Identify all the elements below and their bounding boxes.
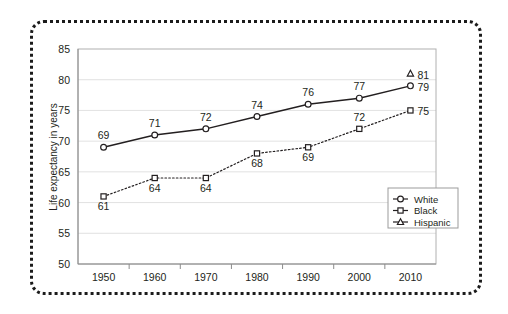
- legend-marker-black: [398, 208, 403, 213]
- line-chart: 5055606570758085 19501960197019801990200…: [0, 0, 508, 314]
- data-label-black-1960: 64: [149, 182, 161, 194]
- data-label-black-1970: 64: [200, 182, 212, 194]
- y-tick-label: 75: [58, 104, 70, 116]
- x-tick-label: 1950: [92, 271, 116, 283]
- y-tick-label: 80: [58, 74, 70, 86]
- data-label-white-1970: 72: [200, 111, 212, 123]
- legend: WhiteBlackHispanic: [388, 188, 458, 228]
- y-tick-label: 70: [58, 135, 70, 147]
- marker-black-1970: [203, 175, 208, 180]
- marker-black-1990: [306, 145, 311, 150]
- x-tick-label: 2000: [348, 271, 372, 283]
- x-tick-label: 1970: [194, 271, 218, 283]
- chart-svg: 5055606570758085 19501960197019801990200…: [0, 0, 508, 314]
- marker-black-2010: [408, 108, 413, 113]
- data-point-labels: 697172747677796164646869727581: [98, 69, 430, 213]
- legend-label-hispanic: Hispanic: [414, 217, 451, 228]
- x-tick-label: 1960: [143, 271, 167, 283]
- data-label-white-2010: 79: [417, 81, 429, 93]
- data-label-hispanic-2010: 81: [417, 69, 429, 81]
- data-label-black-1950: 61: [98, 200, 110, 212]
- marker-white-2010: [408, 83, 414, 89]
- legend-marker-white: [398, 196, 404, 202]
- x-axis-tick-labels: 1950196019701980199020002010: [92, 271, 422, 283]
- x-tick-label: 2010: [399, 271, 423, 283]
- marker-white-1980: [254, 114, 260, 120]
- figure-container: 5055606570758085 19501960197019801990200…: [0, 0, 508, 314]
- marker-black-2000: [357, 126, 362, 131]
- series-markers: [101, 70, 414, 199]
- marker-white-1950: [101, 144, 107, 150]
- data-label-black-1990: 69: [302, 151, 314, 163]
- data-label-white-1960: 71: [149, 117, 161, 129]
- x-axis-tickmarks: [129, 264, 385, 269]
- data-label-white-1990: 76: [302, 86, 314, 98]
- data-label-white-2000: 77: [353, 80, 365, 92]
- legend-label-white: White: [414, 194, 438, 205]
- marker-black-1960: [152, 175, 157, 180]
- marker-hispanic-2010: [407, 70, 413, 76]
- data-label-white-1980: 74: [251, 99, 263, 111]
- data-label-black-2010: 75: [417, 105, 429, 117]
- marker-black-1950: [101, 194, 106, 199]
- x-tick-label: 1990: [296, 271, 320, 283]
- data-label-black-1980: 68: [251, 157, 263, 169]
- y-tick-label: 50: [58, 258, 70, 270]
- data-label-white-1950: 69: [98, 129, 110, 141]
- y-tick-label: 55: [58, 227, 70, 239]
- legend-label-black: Black: [414, 205, 437, 216]
- y-tick-label: 60: [58, 197, 70, 209]
- marker-black-1980: [254, 151, 259, 156]
- marker-white-1970: [203, 126, 209, 132]
- data-label-black-2000: 72: [353, 111, 365, 123]
- y-axis-tick-labels: 5055606570758085: [58, 43, 70, 270]
- x-tick-label: 1980: [245, 271, 269, 283]
- y-axis-title: Life expectancy in years: [48, 103, 59, 210]
- y-tick-label: 65: [58, 166, 70, 178]
- marker-white-1990: [305, 101, 311, 107]
- y-tick-label: 85: [58, 43, 70, 55]
- marker-white-2000: [356, 95, 362, 101]
- marker-white-1960: [152, 132, 158, 138]
